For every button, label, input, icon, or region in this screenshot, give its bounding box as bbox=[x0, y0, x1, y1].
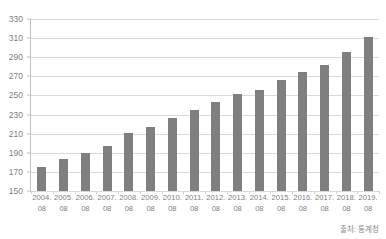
x-axis: 2004.082005.082006.082007.082008.082009.… bbox=[31, 193, 379, 221]
x-axis-tick-mark bbox=[140, 191, 141, 194]
x-axis-tick-mark bbox=[53, 191, 54, 194]
bar bbox=[124, 133, 133, 191]
x-axis-tick-label: 2008.08 bbox=[118, 193, 140, 214]
y-axis-tick-label: 190 bbox=[9, 148, 23, 158]
x-axis-tick-label: 2011.08 bbox=[183, 193, 205, 214]
x-axis-tick-label: 2015.08 bbox=[270, 193, 292, 214]
chart-title bbox=[0, 0, 386, 1]
bar bbox=[168, 118, 177, 191]
x-axis-tick-mark bbox=[96, 191, 97, 194]
x-axis-tick-mark bbox=[249, 191, 250, 194]
x-axis-tick-mark bbox=[270, 191, 271, 194]
bar bbox=[342, 52, 351, 191]
y-axis-tick-label: 150 bbox=[9, 186, 23, 196]
bar bbox=[81, 153, 90, 191]
x-axis-tick-label: 2019.08 bbox=[357, 193, 379, 214]
x-axis-tick-mark bbox=[314, 191, 315, 194]
x-axis-tick-label: 2014.08 bbox=[249, 193, 271, 214]
bar bbox=[146, 127, 155, 191]
y-axis-tick-label: 270 bbox=[9, 71, 23, 81]
x-axis-tick-mark bbox=[75, 191, 76, 194]
bar bbox=[37, 167, 46, 191]
x-axis-tick-mark bbox=[183, 191, 184, 194]
y-axis-tick-label: 250 bbox=[9, 90, 23, 100]
y-axis-tick-label: 290 bbox=[9, 52, 23, 62]
x-axis-tick-label: 2004.08 bbox=[31, 193, 53, 214]
x-axis-tick-label: 2007.08 bbox=[96, 193, 118, 214]
bar bbox=[320, 65, 329, 191]
bar-chart: 330310290270250230210190170150 2004.0820… bbox=[0, 0, 386, 239]
y-axis-tick-label: 230 bbox=[9, 110, 23, 120]
x-axis-tick-mark bbox=[162, 191, 163, 194]
x-axis-tick-label: 2010.08 bbox=[162, 193, 184, 214]
x-axis-tick-label: 2012.08 bbox=[205, 193, 227, 214]
y-axis-tick-label: 330 bbox=[9, 14, 23, 24]
bar bbox=[190, 110, 199, 191]
bars-container bbox=[31, 19, 379, 191]
bar bbox=[277, 80, 286, 191]
x-axis-tick-label: 2009.08 bbox=[140, 193, 162, 214]
x-axis-tick-mark bbox=[31, 191, 32, 194]
x-axis-tick-mark bbox=[379, 191, 380, 194]
x-axis-tick-mark bbox=[227, 191, 228, 194]
x-axis-tick-label: 2005.08 bbox=[53, 193, 75, 214]
x-axis-tick-label: 2018.08 bbox=[336, 193, 358, 214]
x-axis-tick-mark bbox=[118, 191, 119, 194]
y-axis-tick-label: 170 bbox=[9, 167, 23, 177]
x-axis-tick-label: 2006.08 bbox=[75, 193, 97, 214]
bar bbox=[233, 94, 242, 191]
x-axis-tick-label: 2013.08 bbox=[227, 193, 249, 214]
bar bbox=[211, 102, 220, 191]
x-axis-tick-mark bbox=[336, 191, 337, 194]
x-axis-tick-mark bbox=[205, 191, 206, 194]
bar bbox=[298, 72, 307, 191]
bar bbox=[103, 146, 112, 191]
x-axis-tick-mark bbox=[357, 191, 358, 194]
y-axis-tick-label: 210 bbox=[9, 129, 23, 139]
x-axis-tick-label: 2016.08 bbox=[292, 193, 314, 214]
y-axis: 330310290270250230210190170150 bbox=[0, 19, 31, 192]
source-note: 출처: 통계청 bbox=[340, 223, 379, 234]
y-axis-tick-label: 310 bbox=[9, 33, 23, 43]
bar bbox=[255, 90, 264, 191]
bar bbox=[59, 159, 68, 191]
x-axis-tick-label: 2017.08 bbox=[314, 193, 336, 214]
x-axis-tick-mark bbox=[292, 191, 293, 194]
bar bbox=[364, 37, 373, 191]
